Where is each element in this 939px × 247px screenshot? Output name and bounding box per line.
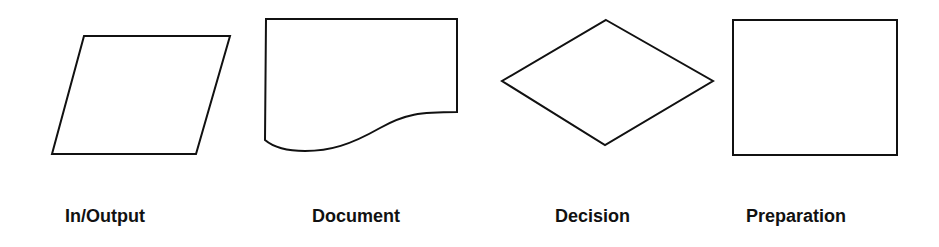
inoutput-parallelogram-shape	[52, 36, 230, 154]
preparation-label: Preparation	[746, 204, 846, 228]
document-shape	[265, 19, 457, 151]
inoutput-label: In/Output	[65, 204, 145, 228]
decision-diamond-shape	[502, 20, 713, 145]
decision-label: Decision	[555, 204, 630, 228]
document-label: Document	[312, 204, 400, 228]
preparation-rectangle-shape	[733, 20, 897, 155]
